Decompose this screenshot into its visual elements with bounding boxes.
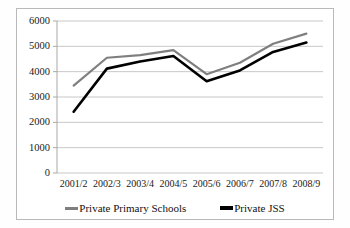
legend-label: Private JSS — [234, 202, 284, 214]
black-line-marker — [220, 206, 233, 210]
y-axis-tick-label: 2000 — [17, 117, 50, 128]
x-axis-tick-label: 2007/8 — [257, 179, 290, 189]
x-axis-tick-label: 2003/4 — [124, 179, 157, 189]
y-axis-tick-label: 1000 — [17, 143, 50, 154]
chart-frame: 0100020003000400050006000 2001/22002/320… — [16, 8, 334, 220]
chart-figure: 0100020003000400050006000 2001/22002/320… — [0, 0, 350, 228]
y-axis-tick-label: 5000 — [17, 41, 50, 52]
y-axis-tick-label: 4000 — [17, 67, 50, 78]
x-axis-tick-label: 2008/9 — [290, 179, 323, 189]
series-line-1 — [74, 34, 307, 86]
series-line-2 — [74, 43, 307, 112]
chart-legend: Private Primary SchoolsPrivate JSS — [17, 202, 333, 214]
x-axis-tick-label: 2001/2 — [57, 179, 90, 189]
x-axis-tick-label: 2005/6 — [190, 179, 223, 189]
x-axis-tick-label: 2002/3 — [90, 179, 123, 189]
legend-label: Private Primary Schools — [79, 202, 186, 214]
y-axis-tick-label: 6000 — [17, 16, 50, 27]
legend-entry[interactable]: Private Primary Schools — [65, 202, 186, 214]
gray-line-marker — [65, 207, 78, 210]
x-axis-tick-label: 2006/7 — [223, 179, 256, 189]
y-axis-tick-label: 3000 — [17, 92, 50, 103]
y-axis-tick-label: 0 — [17, 168, 50, 179]
x-axis-tick-label: 2004/5 — [157, 179, 190, 189]
legend-entry[interactable]: Private JSS — [220, 202, 284, 214]
